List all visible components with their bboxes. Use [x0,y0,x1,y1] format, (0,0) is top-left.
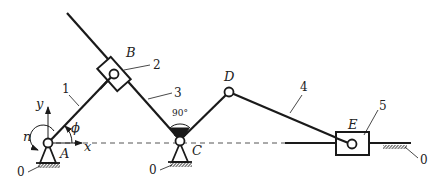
label-link-1: 1 [62,82,70,96]
label-c: C [192,143,202,158]
label-y-axis: y [35,96,44,111]
label-x-axis: x [84,139,92,154]
label-b: B [125,45,136,60]
label-phi: ϕ [71,120,80,135]
ground-hatch-e [383,145,407,149]
ground-leader-c [160,165,172,170]
ground-leader-a [28,166,40,172]
label-right-angle: 90° [172,108,188,118]
label-link-2: 2 [153,58,161,72]
joint-b [110,70,119,79]
joint-d [225,88,234,97]
ground-hatch-c [170,163,192,167]
right-angle-arc [170,124,190,128]
label-link-5: 5 [379,99,387,113]
leader-4 [290,95,302,113]
label-e: E [347,117,358,132]
joint-e [348,140,357,149]
joint-a [44,139,53,148]
leader-3 [148,93,172,99]
label-ground-a: 0 [17,165,25,178]
leader-2 [124,65,150,70]
ground-hatch-a [38,164,60,168]
label-link-3: 3 [174,86,182,100]
label-link-4: 4 [300,80,308,94]
leader-1 [69,95,79,106]
leader-5 [364,110,378,135]
link-4-connecting-rod [229,92,351,144]
diagram-canvas: A B C D E x y n ϕ 90° 1 2 3 4 5 0 0 0 [0,0,444,178]
label-a: A [59,146,69,161]
ground-leader-e [405,147,418,158]
joint-c [176,137,185,146]
label-ground-e: 0 [420,153,428,167]
label-ground-c: 0 [149,163,157,177]
label-n: n [23,129,31,144]
label-d: D [223,69,235,84]
mechanism-diagram: A B C D E x y n ϕ 90° 1 2 3 4 5 0 0 0 [0,0,444,178]
